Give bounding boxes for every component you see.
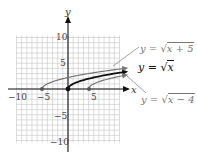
- start-point-origin: [66, 87, 71, 92]
- radical-icon: √: [161, 94, 167, 105]
- x-tick-neg10: −10: [8, 92, 27, 102]
- leader-line-sqrt-x-plus-5: [113, 47, 139, 66]
- radical-icon: √: [160, 43, 166, 54]
- equation-sqrt-x-plus-5: y = √x + 5: [140, 43, 194, 54]
- x-tick-5: 5: [91, 92, 97, 102]
- y-tick-10: 10: [56, 32, 68, 42]
- graph-canvas: x y −10 −5 5 10 5 −5 −10: [0, 0, 197, 158]
- equation-sqrt-x: y = √x: [138, 61, 174, 74]
- y-tick-5: 5: [60, 58, 66, 68]
- start-point-neg5: [40, 87, 44, 91]
- x-axis-arrow-icon: [123, 86, 130, 92]
- equation-sqrt-x-minus-4: y = √x − 4: [141, 94, 195, 105]
- x-tick-neg5: −5: [37, 92, 51, 102]
- y-tick-neg5: −5: [54, 111, 68, 121]
- y-axis-label: y: [64, 6, 71, 17]
- y-tick-neg10: −10: [50, 137, 69, 147]
- curve-sqrt-x: [68, 72, 126, 89]
- x-axis-label: x: [131, 84, 137, 95]
- y-axis-arrow-icon: [65, 16, 71, 23]
- start-point-4: [87, 87, 91, 91]
